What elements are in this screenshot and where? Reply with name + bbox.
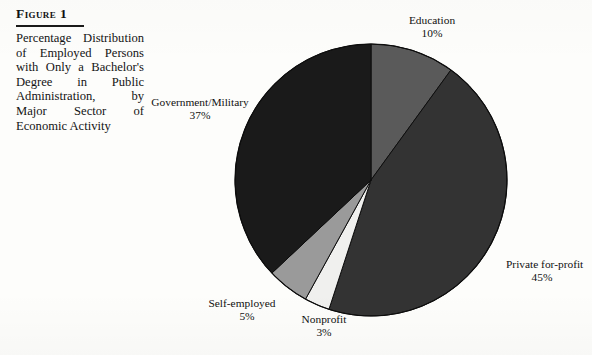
slice-label-nonprofit-pct: 3%: [286, 326, 362, 339]
pie-slices: [235, 44, 507, 316]
pie-chart: [233, 42, 509, 318]
figure-page: Figure 1 Percentage Distribution of Empl…: [0, 0, 592, 355]
slice-label-government-military-name: Government/Military: [151, 96, 248, 108]
figure-caption-text: Percentage Distribution of Employed Pers…: [16, 31, 144, 133]
figure-number-label: Figure 1: [16, 6, 144, 24]
pie-chart-svg: [233, 42, 509, 318]
slice-label-education-pct: 10%: [389, 27, 475, 40]
slice-label-education: Education 10%: [389, 14, 475, 40]
slice-label-nonprofit-name: Nonprofit: [302, 313, 347, 325]
figure-rule-divider: [16, 25, 84, 27]
slice-label-education-name: Education: [409, 14, 455, 26]
slice-label-private-for-profit-name: Private for-profit: [506, 258, 583, 270]
slice-label-self-employed: Self-employed 5%: [196, 297, 288, 323]
slice-label-government-military: Government/Military 37%: [140, 96, 260, 122]
slice-label-private-for-profit: Private for-profit 45%: [506, 258, 592, 284]
slice-label-nonprofit: Nonprofit 3%: [286, 313, 362, 339]
slice-label-government-military-pct: 37%: [140, 109, 260, 122]
slice-label-private-for-profit-pct: 45%: [506, 271, 592, 284]
slice-label-self-employed-name: Self-employed: [208, 297, 275, 309]
slice-label-self-employed-pct: 5%: [196, 310, 288, 323]
figure-caption-block: Figure 1 Percentage Distribution of Empl…: [16, 6, 144, 133]
